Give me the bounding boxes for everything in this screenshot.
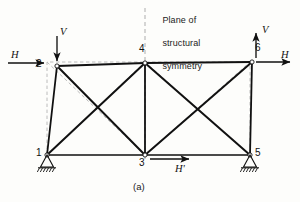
node-label-5: 5 xyxy=(255,147,261,158)
undeformed-outline xyxy=(47,62,250,155)
load-label-H-prime: H' xyxy=(175,163,185,174)
joint-6 xyxy=(250,60,254,64)
node-label-2: 2 xyxy=(36,58,42,69)
node-label-6: 6 xyxy=(255,42,261,53)
load-arrows xyxy=(8,33,290,159)
member-1-2 xyxy=(47,66,57,155)
symmetry-plane-label: Plane of structural symmetry xyxy=(152,3,202,84)
symmetry-line-3: symmetry xyxy=(162,61,202,71)
node-label-1: 1 xyxy=(36,147,42,158)
node-label-3: 3 xyxy=(139,157,145,168)
truss-diagram xyxy=(0,0,300,202)
figure-caption: (a) xyxy=(133,181,145,192)
truss-joints xyxy=(45,60,254,157)
member-2-4 xyxy=(57,63,145,66)
node-label-4: 4 xyxy=(139,43,145,54)
truss-members xyxy=(47,62,252,155)
figure-container: Plane of structural symmetry 1 2 3 4 5 6… xyxy=(0,0,300,202)
undeformed-shape xyxy=(47,62,250,155)
joint-4 xyxy=(143,61,147,65)
member-2-3 xyxy=(57,66,145,155)
load-label-H-left: H xyxy=(11,49,19,60)
load-label-V-right: V xyxy=(262,24,268,35)
joint-2 xyxy=(55,64,59,68)
load-label-H-right: H xyxy=(281,49,289,60)
symmetry-line-2: structural xyxy=(162,38,200,48)
symmetry-line-1: Plane of xyxy=(162,15,196,25)
member-5-6 xyxy=(250,62,252,155)
load-label-V-left: V xyxy=(60,26,66,37)
